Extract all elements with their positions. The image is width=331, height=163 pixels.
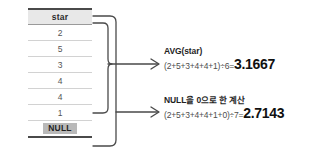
non-null-rows-bracket [93, 23, 112, 113]
cell-value: 1 [58, 108, 63, 118]
table-row: 1 [28, 105, 92, 121]
cell-value: 3 [58, 60, 63, 70]
table-row: 2 [28, 25, 92, 41]
table-bottom-rule [28, 136, 92, 138]
cell-value: 4 [58, 76, 63, 86]
cell-value: 2 [58, 28, 63, 38]
diagram-root: star 2 5 3 4 4 1 NULL [0, 0, 331, 163]
cell-value: 4 [58, 92, 63, 102]
calculation-result: 3.1667 [234, 58, 275, 71]
all-rows-bracket [93, 16, 116, 146]
table-column-header-star: star [28, 10, 92, 25]
arrow-head-null-zero [151, 107, 159, 117]
table-row: 4 [28, 89, 92, 105]
table-row-null: NULL [28, 121, 92, 136]
cell-value: 5 [58, 44, 63, 54]
calculation-result: 2.7143 [243, 107, 284, 120]
table-row: 4 [28, 73, 92, 89]
calculation-expression: (2+5+3+4+4+1)÷6= [164, 60, 234, 73]
calculation-formula: (2+5+3+4+4+1+0)÷7= 2.7143 [164, 107, 284, 122]
arrow-head-avg [151, 59, 159, 69]
calculation-null-as-zero: NULL을 0으로 한 계산 (2+5+3+4+4+1+0)÷7= 2.7143 [164, 95, 284, 122]
table-row: 3 [28, 57, 92, 73]
calculation-expression: (2+5+3+4+4+1+0)÷7= [164, 109, 243, 122]
null-cell-value: NULL [43, 123, 76, 134]
calculation-avg-star: AVG(star) (2+5+3+4+4+1)÷6= 3.1667 [164, 46, 275, 73]
star-table: star 2 5 3 4 4 1 NULL [28, 8, 92, 138]
table-row: 5 [28, 41, 92, 57]
calculation-formula: (2+5+3+4+4+1)÷6= 3.1667 [164, 58, 275, 73]
